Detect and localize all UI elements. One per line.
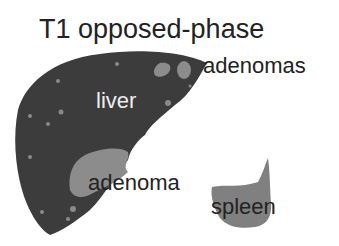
label-spleen: spleen	[211, 196, 276, 218]
label-adenoma: adenoma	[88, 172, 180, 194]
liver-shape	[15, 51, 207, 235]
adenoma-lesion-small-2	[177, 61, 191, 79]
diagram-title: T1 opposed-phase	[39, 16, 264, 43]
diagram: T1 opposed-phase adenomas liver adenoma …	[0, 0, 339, 246]
label-liver: liver	[96, 90, 136, 112]
label-adenomas: adenomas	[203, 55, 306, 77]
